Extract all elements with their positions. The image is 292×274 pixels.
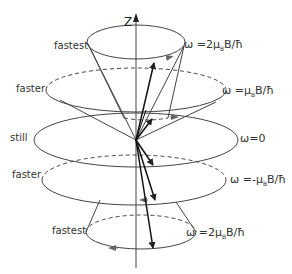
omega-top-post: B/ħ	[224, 38, 243, 51]
omega-lower-pre: ω =-μ	[230, 173, 263, 186]
vector-bottom-fastest	[136, 140, 153, 248]
vector-lower-faster-2	[136, 140, 155, 200]
label-upper-faster: faster	[16, 84, 45, 94]
label-bottom-fastest: fastest	[52, 226, 86, 236]
omega-bottom-fastest: ω =2μBB/ħ	[186, 227, 245, 240]
omega-bottom-pre: ω =2μ	[186, 226, 222, 239]
omega-top-pre: ω =2μ	[184, 38, 220, 51]
omega-upper-pre: ω =μ	[222, 84, 251, 97]
omega-bottom-post: B/ħ	[226, 226, 245, 239]
label-lower-faster: faster	[12, 170, 41, 180]
z-axis-arrowhead	[133, 13, 139, 22]
omega-lower-post: B/ħ	[267, 173, 286, 186]
omega-upper-post: B/ħ	[255, 84, 274, 97]
label-top-fastest: fastest	[54, 41, 88, 51]
bottom-fastest-cone	[86, 200, 196, 249]
lower-faster-ring	[42, 155, 226, 205]
omega-still: ω=0	[240, 133, 265, 144]
z-axis-label: Z	[124, 16, 132, 28]
omega-top-fastest: ω =2μBB/ħ	[184, 39, 243, 52]
label-still: still	[10, 133, 27, 143]
omega-upper-faster: ω =μBB/ħ	[222, 85, 274, 98]
omega-lower-faster: ω =-μBB/ħ	[230, 174, 286, 187]
